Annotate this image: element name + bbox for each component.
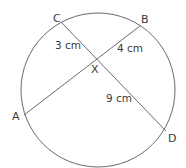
point-label-d: D xyxy=(168,132,176,145)
point-label-a: A xyxy=(12,110,20,123)
point-label-x: X xyxy=(91,63,99,76)
point-label-b: B xyxy=(141,13,149,26)
length-label-xb: 4 cm xyxy=(117,42,143,54)
length-label-cx: 3 cm xyxy=(55,39,81,51)
point-label-c: C xyxy=(53,12,61,25)
intersecting-chords-diagram: C B A D X 3 cm 4 cm 9 cm xyxy=(0,0,186,168)
length-label-xd: 9 cm xyxy=(106,92,132,104)
circle xyxy=(21,13,175,167)
